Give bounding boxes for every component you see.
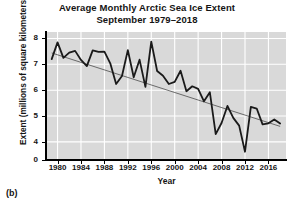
data-line-sea-ice-extent [52, 42, 280, 152]
x-tick-mark [81, 161, 82, 164]
y-tick-label: 5 [16, 112, 38, 120]
x-tick-mark [175, 161, 176, 164]
x-tick-mark [268, 161, 269, 164]
x-tick-mark [198, 161, 199, 164]
x-tick-label: 2016 [254, 163, 282, 172]
y-tick-label: 6 [16, 86, 38, 94]
x-axis-title: Year [47, 176, 286, 186]
y-axis-line [45, 31, 47, 161]
y-tick-label: 7 [16, 60, 38, 68]
y-tick-mark [42, 38, 45, 39]
chart-title-line2: September 1979–2018 [0, 14, 294, 26]
x-tick-mark [151, 161, 152, 164]
gridlines [47, 32, 286, 160]
x-tick-mark [58, 161, 59, 164]
y-tick-label: 4 [16, 138, 38, 146]
chart-title: Average Monthly Arctic Sea Ice Extent Se… [0, 2, 294, 25]
plot-svg [47, 32, 286, 160]
x-tick-mark [245, 161, 246, 164]
y-axis-title-holder: Extent (millions of square kilometers) [0, 26, 16, 156]
y-tick-mark [42, 64, 45, 65]
x-tick-mark [104, 161, 105, 164]
y-tick-label: 0 [16, 156, 38, 164]
y-tick-mark [42, 116, 45, 117]
y-axis-tick-labels [16, 0, 42, 208]
figure-panel: Average Monthly Arctic Sea Ice Extent Se… [0, 0, 294, 208]
y-tick-label: 8 [16, 34, 38, 42]
y-tick-mark [42, 90, 45, 91]
plot-area [47, 32, 286, 160]
chart-title-line1: Average Monthly Arctic Sea Ice Extent [59, 2, 235, 13]
y-tick-mark [42, 160, 45, 161]
y-tick-mark [42, 142, 45, 143]
x-tick-mark [222, 161, 223, 164]
panel-label: (b) [6, 188, 18, 198]
x-tick-mark [128, 161, 129, 164]
